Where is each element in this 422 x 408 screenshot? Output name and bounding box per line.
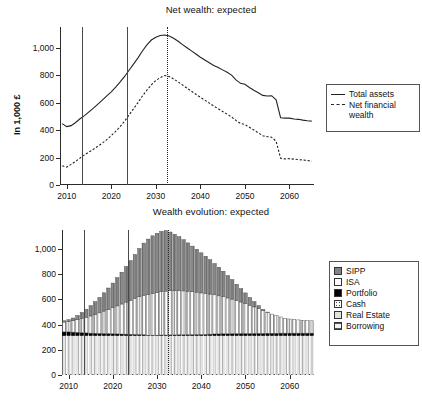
bar-segment-sipp [151,236,154,294]
stacked-bar [85,309,88,375]
bar-segment-isa [200,293,203,335]
stacked-bar [230,280,233,375]
stacked-bar [80,312,83,375]
bar-segment-real-estate [191,336,194,375]
bar-segment-real-estate [261,336,264,375]
y-tick-top [56,75,60,76]
bar-segment-sipp [146,239,149,294]
bar-segment-sipp [173,234,176,290]
bar-segment-real-estate [164,336,167,375]
stacked-bar [71,318,74,375]
bar-segment-sipp [120,272,123,304]
legend-label-portfolio: Portfolio [346,288,413,298]
bar-segment-real-estate [107,336,110,375]
bar-segment-isa [208,294,211,334]
bar-segment-real-estate [102,336,105,375]
bar-segment-sipp [226,276,229,298]
retirement-vline-bottom [168,230,169,375]
bar-segment-isa [151,294,154,336]
bar-segment-isa [266,312,269,333]
bar-segment-isa [230,299,233,334]
y-tick-top [56,103,60,104]
bar-segment-real-estate [200,336,203,375]
y-tick-label-top: 600 [40,98,54,108]
bar-segment-sipp [164,231,167,292]
stacked-bar [257,306,260,375]
stacked-bar [270,314,273,375]
bar-segment-portfolio [217,334,220,336]
bar-segment-real-estate [138,336,141,375]
bar-segment-real-estate [146,336,149,375]
bar-segment-real-estate [230,336,233,375]
bar-segment-isa [248,305,251,333]
bar-segment-real-estate [204,336,207,375]
bar-segment-isa [186,291,189,334]
stacked-bar [208,260,211,375]
bar-segment-real-estate [155,336,158,375]
stacked-bar [182,240,185,375]
bar-segment-sipp [239,289,242,302]
x-tick-top [111,185,112,189]
legend-item-isa: ISA [334,277,413,287]
bar-segment-sipp [124,267,127,303]
bar-segment-isa [85,317,88,333]
bar-segment-sipp [62,321,65,322]
bar-segment-real-estate [133,336,136,375]
bar-segment-portfolio [244,334,247,336]
bar-segment-isa [102,311,105,333]
bar-segment-portfolio [306,333,309,336]
y-tick-label-bottom: 1,000 [35,244,56,254]
bar-segment-portfolio [257,333,260,335]
bar-segment-isa [169,291,172,335]
bar-segment-real-estate [270,336,273,375]
bar-segment-real-estate [85,336,88,375]
bar-segment-isa [160,292,163,335]
bar-segment-isa [310,321,313,333]
stacked-bar [146,239,149,375]
stacked-bar [177,237,180,375]
panel-title-wealth-evolution: Wealth evolution: expected [0,206,422,217]
bar-segment-sipp [67,320,70,322]
bar-segment-real-estate [169,336,172,375]
bar-segment-real-estate [89,336,92,375]
legend-label-isa: ISA [346,277,413,287]
bar-segment-real-estate [301,336,304,375]
x-tick-bottom [290,375,291,379]
legend-swatch-sipp-icon [334,267,342,275]
bar-segment-isa [301,320,304,333]
y-tick-bottom [58,299,62,300]
line-solid-icon [331,89,346,99]
bar-segment-portfolio [253,333,256,335]
panel-net-wealth: Net wealth: expected In 1,000 £ 02004006… [0,0,422,204]
bar-segment-sipp [116,278,119,306]
bar-segment-real-estate [80,336,83,375]
stacked-bar [239,289,242,375]
bar-segment-real-estate [248,336,251,375]
bar-segment-sipp [129,261,132,301]
bar-segment-isa [297,320,300,333]
bar-segment-sipp [76,315,79,319]
bar-segment-portfolio [76,332,79,335]
y-tick-label-bottom: 400 [42,320,56,330]
bar-segment-isa [146,295,149,336]
bar-segment-isa [76,320,79,333]
bar-segment-isa [116,306,119,334]
bar-segment-real-estate [306,336,309,375]
x-tick-bottom [113,375,114,379]
bar-segment-sipp [230,280,233,299]
stacked-bar [204,256,207,375]
bar-segment-sipp [182,240,185,291]
bar-segment-portfolio [98,333,101,335]
bar-segment-sipp [248,297,251,305]
legend-swatch-real-estate-icon [334,311,342,319]
x-tick-top [156,185,157,189]
y-tick-label-bottom: 800 [42,269,56,279]
bar-segment-portfolio [297,333,300,336]
legend-label-cash: Cash [346,299,413,309]
stacked-bar [169,232,172,375]
bar-segment-real-estate [217,336,220,375]
bar-segment-sipp [208,260,211,294]
bar-segment-sipp [235,284,238,300]
bar-segment-portfolio [85,333,88,336]
stacked-bar [164,231,167,375]
